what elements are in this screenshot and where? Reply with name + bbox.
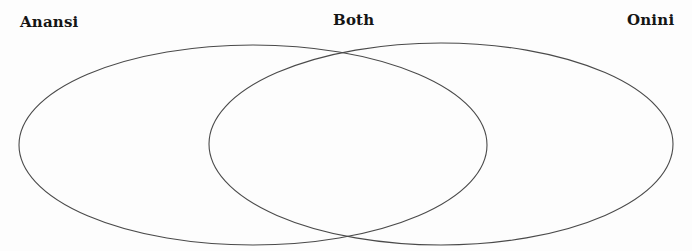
both-label: Both [333, 13, 374, 28]
onini-label: Onini [627, 13, 674, 28]
anansi-label: Anansi [20, 15, 79, 30]
onini-ellipse [209, 43, 673, 245]
anansi-ellipse [19, 45, 487, 245]
venn-ellipses [0, 0, 692, 251]
